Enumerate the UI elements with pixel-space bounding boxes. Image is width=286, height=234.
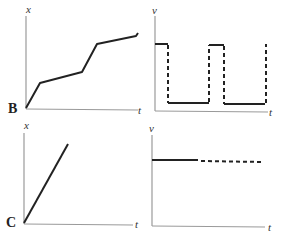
x-axis-label: t [138, 104, 142, 116]
c-velocity-time-graph: v t [149, 122, 272, 233]
y-axis-label: x [23, 119, 29, 131]
y-axis-label: v [149, 122, 154, 134]
panel-label: B [8, 101, 17, 116]
position-curve [26, 33, 138, 108]
x-axis-label: t [268, 221, 272, 233]
velocity-dashed [201, 161, 263, 162]
panel-label: C [6, 215, 16, 230]
position-line [24, 144, 68, 223]
y-axis-label: v [152, 4, 157, 16]
x-axis [26, 109, 138, 110]
x-axis-label: t [135, 218, 139, 230]
c-position-time-graph: x t C [6, 119, 139, 230]
motion-graphs-figure: x t B v t x t C v t [0, 0, 286, 234]
b-velocity-time-graph: v t [152, 4, 273, 118]
x-axis-label: t [269, 106, 273, 118]
b-position-time-graph: x t B [8, 3, 142, 116]
y-axis-label: x [25, 3, 31, 15]
x-axis [155, 111, 268, 112]
x-axis [152, 226, 265, 227]
x-axis [24, 224, 133, 225]
